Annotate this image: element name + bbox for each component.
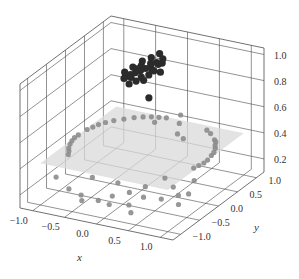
series-inner-cluster-high-z- <box>120 50 166 101</box>
data-point <box>115 180 120 185</box>
y-tick-label: 0.0 <box>231 203 244 214</box>
y-tick-label: −1.0 <box>193 231 211 242</box>
data-point <box>175 131 180 136</box>
data-point <box>157 69 164 76</box>
data-point <box>133 78 140 85</box>
data-point <box>107 202 112 207</box>
data-point <box>178 112 183 117</box>
data-point <box>128 210 133 215</box>
data-point <box>164 115 169 120</box>
data-point <box>90 125 95 130</box>
data-point <box>90 175 95 180</box>
data-point <box>129 64 136 71</box>
data-point <box>162 176 167 181</box>
x-tick-label: 0.0 <box>76 228 89 239</box>
data-point <box>209 153 214 158</box>
data-point <box>192 178 197 183</box>
data-point <box>141 114 146 119</box>
y-axis-label: y <box>253 221 259 233</box>
data-point <box>127 190 132 195</box>
z-tick-label: 0.2 <box>274 154 287 165</box>
x-axis-label: x <box>76 251 82 263</box>
y-tick-label: 0.5 <box>250 189 263 200</box>
data-point <box>139 57 146 64</box>
data-point <box>143 184 148 189</box>
data-point <box>66 186 71 191</box>
data-point <box>186 191 191 196</box>
y-tick-label: 1.0 <box>268 175 281 186</box>
data-point <box>96 198 101 203</box>
data-point <box>204 128 209 133</box>
z-tick-label: 0.8 <box>274 76 287 87</box>
data-point <box>103 120 108 125</box>
data-point <box>149 114 154 119</box>
data-point <box>156 115 161 120</box>
z-tick-label: 0.4 <box>274 128 287 139</box>
data-point <box>148 54 155 61</box>
data-point <box>110 194 115 199</box>
data-point <box>159 197 164 202</box>
data-point <box>181 136 186 141</box>
data-point <box>79 192 84 197</box>
data-point <box>145 94 152 101</box>
x-tick-label: 0.5 <box>108 235 121 246</box>
data-point <box>96 122 101 127</box>
data-point <box>177 121 182 126</box>
data-point <box>196 163 201 168</box>
data-point <box>201 160 206 165</box>
z-tick-label: 1.0 <box>274 50 287 61</box>
data-point <box>54 175 59 180</box>
data-point <box>120 75 127 82</box>
data-point <box>111 118 116 123</box>
data-point <box>66 152 71 157</box>
x-tick-label: 1.0 <box>140 241 153 252</box>
data-point <box>150 67 157 74</box>
x-tick-label: −0.5 <box>42 221 60 232</box>
data-point <box>126 80 133 87</box>
data-point <box>176 193 181 198</box>
z-tick-label: 0.6 <box>274 102 287 113</box>
data-point <box>140 77 147 84</box>
data-point <box>121 117 126 122</box>
data-point <box>85 127 90 132</box>
data-point <box>121 69 128 76</box>
data-point <box>141 195 146 200</box>
x-tick-label: −1.0 <box>10 215 28 226</box>
y-tick-label: −0.5 <box>212 217 230 228</box>
scatter-3d-plot: −1.0−0.50.00.51.0−1.0−0.50.00.51.00.20.4… <box>0 0 299 279</box>
data-point <box>132 115 137 120</box>
data-point <box>191 166 196 171</box>
data-point <box>171 185 176 190</box>
data-point <box>126 202 131 207</box>
data-point <box>152 120 157 125</box>
data-point <box>79 198 84 203</box>
data-point <box>156 50 163 57</box>
data-point <box>176 202 181 207</box>
